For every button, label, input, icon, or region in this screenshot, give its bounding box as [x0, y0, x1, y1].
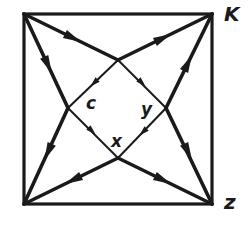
arrow-icon: [180, 53, 196, 73]
thick-arrowheads: [40, 30, 196, 188]
arrow-icon: [40, 142, 56, 162]
arrow-icon: [153, 172, 173, 188]
node-label-K: K: [224, 4, 240, 24]
arrow-icon: [180, 142, 196, 162]
arrow-icon: [153, 30, 173, 46]
square-arrow-diagram: [0, 0, 248, 228]
arrow-icon: [40, 55, 56, 75]
node-label-y: y: [141, 101, 152, 118]
node-label-x: x: [111, 133, 122, 150]
node-label-z: z: [224, 192, 236, 212]
outer-square: [24, 14, 212, 204]
thick-edges: [24, 14, 212, 204]
arrow-icon: [63, 30, 83, 46]
node-label-c: c: [86, 95, 96, 112]
arrow-icon: [63, 172, 83, 188]
